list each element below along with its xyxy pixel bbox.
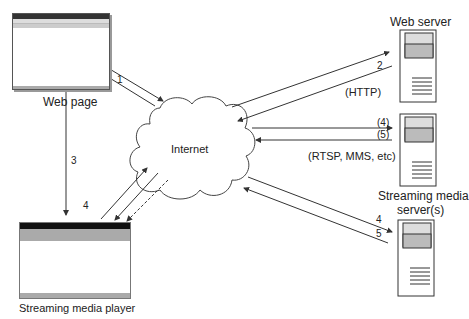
browser-status-bar — [13, 86, 109, 89]
edge-label-4-paren: (4) — [377, 117, 389, 128]
streaming-media-diagram: Web page Streaming media player Internet… — [0, 0, 469, 319]
web-server-icon — [400, 30, 436, 102]
edge-label-2: 2 — [377, 60, 383, 71]
streaming-server-label-line1: Streaming media — [378, 189, 469, 203]
edge-label-3: 3 — [71, 155, 77, 166]
streaming-server-2-icon — [398, 220, 434, 296]
streaming-server-icon — [400, 114, 436, 186]
http-protocol-label: (HTTP) — [345, 86, 381, 98]
edge-label-4-lower: 4 — [376, 214, 382, 225]
player-toolbar — [20, 229, 130, 241]
streaming-protocol-label: (RTSP, MMS, etc) — [308, 150, 396, 162]
player-status-bar — [20, 293, 130, 298]
web-page-label: Web page — [43, 95, 98, 109]
edge-label-4-player: 4 — [83, 200, 89, 211]
browser-address-bar — [13, 24, 109, 28]
streaming-player-window — [19, 222, 131, 299]
web-server-label: Web server — [390, 15, 451, 29]
edge-label-5-paren: (5) — [377, 129, 389, 140]
edge-label-1: 1 — [117, 74, 123, 85]
streaming-server-label-line2: server(s) — [397, 203, 444, 217]
web-page-browser-window — [12, 13, 110, 90]
player-label: Streaming media player — [19, 302, 135, 314]
internet-label: Internet — [171, 143, 208, 155]
edge-label-5-lower: 5 — [376, 228, 382, 239]
